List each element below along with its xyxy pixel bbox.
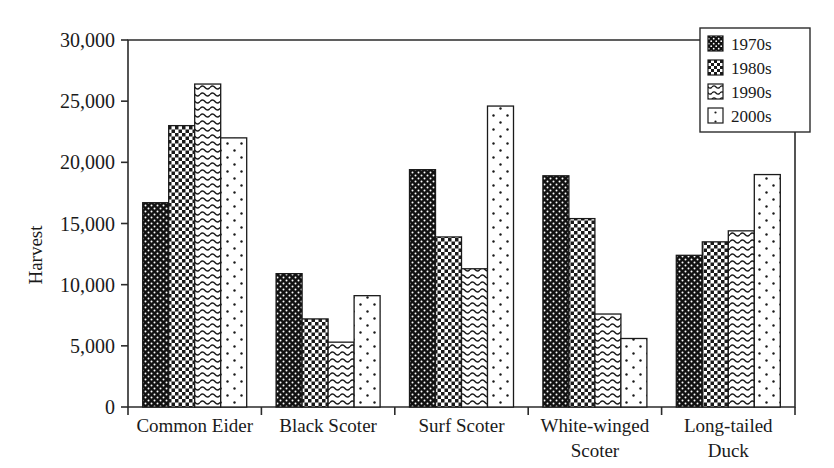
bar	[410, 170, 436, 407]
legend: 1970s1980s1990s2000s	[700, 28, 810, 132]
y-axis-title: Harvest	[25, 225, 46, 285]
bar	[436, 237, 462, 407]
y-tick-label: 10,000	[60, 274, 115, 296]
y-tick-label: 30,000	[60, 29, 115, 51]
x-axis-category-label: Duck	[708, 440, 750, 461]
legend-label: 1980s	[731, 59, 772, 78]
x-axis-category-label: Common Eider	[136, 415, 253, 436]
legend-swatch-1970s	[708, 36, 723, 51]
x-axis-category-label: Surf Scoter	[418, 415, 505, 436]
y-axis: 05,00010,00015,00020,00025,00030,000	[60, 29, 128, 418]
legend-swatch-1980s	[708, 60, 723, 75]
bar	[328, 342, 354, 407]
y-tick-label: 5,000	[70, 335, 115, 357]
bar	[354, 296, 380, 407]
bar	[302, 319, 328, 407]
bar	[569, 219, 595, 407]
bar	[702, 242, 728, 407]
bar-series-group	[143, 84, 781, 407]
bar	[169, 126, 195, 407]
y-tick-label: 25,000	[60, 90, 115, 112]
x-axis-category-label: Long-tailed	[684, 415, 773, 436]
harvest-bar-chart: 05,00010,00015,00020,00025,00030,000 Har…	[0, 0, 834, 468]
bar	[221, 138, 247, 407]
bar	[276, 274, 302, 407]
x-axis-ticks	[128, 407, 795, 415]
legend-label: 1990s	[731, 83, 772, 102]
x-axis-category-label: White-winged	[541, 415, 650, 436]
bar	[462, 269, 488, 407]
x-axis-category-label: Scoter	[571, 440, 620, 461]
x-axis-category-labels: Common EiderBlack ScoterSurf ScoterWhite…	[136, 415, 773, 461]
legend-swatch-2000s	[708, 108, 723, 123]
bar	[543, 176, 569, 407]
chart-figure: 05,00010,00015,00020,00025,00030,000 Har…	[0, 0, 834, 468]
bar	[488, 106, 514, 407]
bar	[195, 84, 221, 407]
bar	[143, 203, 169, 407]
x-axis-category-label: Black Scoter	[279, 415, 377, 436]
y-tick-label: 15,000	[60, 213, 115, 235]
y-tick-label: 0	[105, 396, 115, 418]
bar	[728, 231, 754, 407]
bar	[676, 255, 702, 407]
bar	[621, 338, 647, 407]
legend-swatch-1990s	[708, 84, 723, 99]
y-tick-label: 20,000	[60, 151, 115, 173]
bar	[595, 314, 621, 407]
bar	[754, 175, 780, 407]
legend-label: 1970s	[731, 35, 772, 54]
legend-label: 2000s	[731, 107, 772, 126]
